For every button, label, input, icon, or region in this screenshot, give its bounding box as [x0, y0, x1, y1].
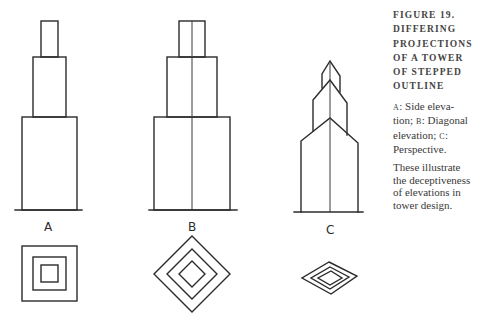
caption-title-line: OF A TOWER	[393, 53, 463, 63]
legend-key-b: B	[416, 117, 422, 126]
tower-a-plan	[22, 246, 77, 301]
legend-text: elevation;	[393, 129, 436, 141]
tower-a-elevation	[15, 21, 82, 210]
note-line: the deceptiveness	[393, 174, 470, 186]
caption-title-line: OUTLINE	[393, 81, 445, 91]
caption-title: FIGURE 19. DIFFERING PROJECTIONS OF A TO…	[393, 8, 489, 94]
legend-text: Diagonal	[428, 114, 468, 126]
label-c: C	[326, 223, 334, 237]
legend-key-c: C	[439, 132, 445, 141]
tower-b-plan	[154, 236, 230, 312]
tower-c-perspective	[294, 61, 363, 212]
label-b: B	[188, 220, 196, 234]
note-line: of elevations in	[393, 186, 461, 198]
label-a: A	[44, 220, 53, 234]
caption-note: These illustrate the deceptiveness of el…	[393, 161, 489, 211]
caption-title-line: FIGURE 19.	[393, 10, 455, 20]
caption-title-line: OF STEPPED	[393, 67, 462, 77]
note-line: tower design.	[393, 199, 452, 211]
caption-title-line: DIFFERING	[393, 24, 456, 34]
legend-text: Perspective.	[393, 143, 446, 155]
figure-caption: FIGURE 19. DIFFERING PROJECTIONS OF A TO…	[393, 8, 489, 211]
note-line: These illustrate	[393, 161, 461, 173]
legend-text: Side eleva-	[405, 100, 454, 112]
legend-text: tion;	[393, 114, 413, 126]
tower-c-plan	[302, 262, 357, 294]
legend-key-a: A	[393, 103, 399, 112]
caption-title-line: PROJECTIONS	[393, 39, 473, 49]
tower-b-elevation	[149, 21, 237, 210]
caption-legend: A: Side eleva- tion; B: Diagonal elevati…	[393, 100, 489, 156]
